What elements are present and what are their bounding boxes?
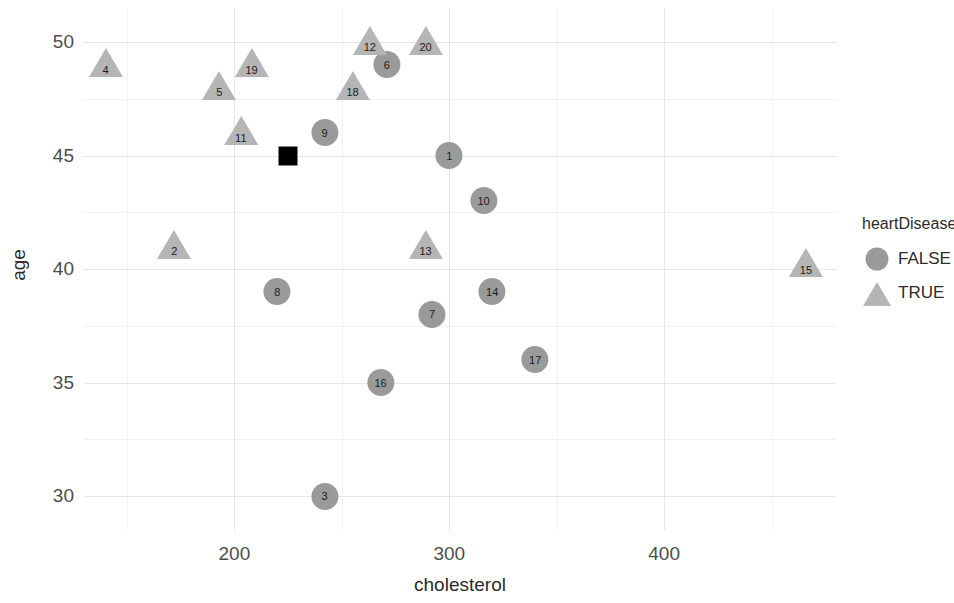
data-point-16[interactable]: 16: [374, 377, 386, 388]
data-point-label: 17: [529, 354, 541, 365]
gridline-minor-horizontal: [84, 326, 836, 327]
legend: heartDisease FALSETRUE: [862, 215, 954, 310]
data-point-label: 14: [486, 286, 498, 297]
data-point-13[interactable]: 13: [419, 241, 431, 252]
legend-item-true[interactable]: TRUE: [862, 276, 954, 310]
data-point-label: 9: [322, 127, 328, 138]
data-point-3[interactable]: 3: [322, 491, 328, 502]
y-axis-title: age: [8, 225, 30, 305]
data-point-label: 20: [419, 42, 431, 53]
y-tick-label: 40: [53, 258, 74, 280]
x-tick-label: 200: [219, 543, 251, 565]
data-point-label: 18: [346, 87, 358, 98]
circle-legend-icon: [862, 244, 892, 274]
data-point-label: 7: [429, 309, 435, 320]
gridline-major-horizontal: [84, 269, 836, 270]
data-point-label: 4: [102, 64, 108, 75]
data-point-label: 11: [235, 132, 246, 143]
data-point-5[interactable]: 5: [216, 82, 222, 93]
data-point-17[interactable]: 17: [529, 354, 541, 365]
data-point-label: 6: [384, 59, 390, 70]
data-point-1[interactable]: 1: [446, 150, 452, 161]
data-point-label: 2: [171, 246, 177, 257]
data-point-label: 5: [216, 87, 222, 98]
y-tick-label: 35: [53, 372, 74, 394]
data-point-15[interactable]: 15: [800, 259, 812, 270]
data-point-label: 19: [245, 64, 257, 75]
legend-title: heartDisease: [862, 215, 954, 233]
data-point-label: 13: [419, 246, 431, 257]
gridline-minor-horizontal: [84, 99, 836, 100]
circle-glyph: [866, 248, 889, 271]
data-point-18[interactable]: 18: [346, 82, 358, 93]
data-point-12[interactable]: 12: [364, 37, 376, 48]
square-marker-icon: [279, 146, 298, 165]
data-point-label: 8: [274, 286, 280, 297]
gridline-minor-horizontal: [84, 212, 836, 213]
data-point-label: 1: [446, 150, 452, 161]
legend-item-label: TRUE: [898, 283, 944, 303]
x-axis-title: cholesterol: [84, 574, 836, 596]
data-point-14[interactable]: 14: [486, 286, 498, 297]
data-point-4[interactable]: 4: [102, 59, 108, 70]
data-point-7[interactable]: 7: [429, 309, 435, 320]
data-point-9[interactable]: 9: [322, 127, 328, 138]
triangle-glyph: [863, 282, 891, 306]
gridline-major-horizontal: [84, 42, 836, 43]
data-point-label: 15: [800, 264, 812, 275]
data-point-label: 10: [477, 195, 489, 206]
legend-item-label: FALSE: [898, 249, 951, 269]
scatter-plot-figure: 3035404550 age 1367891014161724511121315…: [0, 0, 954, 603]
data-point-6[interactable]: 6: [384, 59, 390, 70]
gridline-major-horizontal: [84, 383, 836, 384]
data-point-8[interactable]: 8: [274, 286, 280, 297]
y-tick-label: 45: [53, 145, 74, 167]
x-tick-label: 300: [433, 543, 465, 565]
data-point-label: 16: [374, 377, 386, 388]
data-point-20[interactable]: 20: [419, 37, 431, 48]
data-point-19[interactable]: 19: [245, 59, 257, 70]
legend-entries: FALSETRUE: [862, 242, 954, 310]
data-point-label: 3: [322, 491, 328, 502]
triangle-legend-icon: [862, 278, 892, 308]
gridline-major-horizontal: [84, 496, 836, 497]
y-tick-label: 30: [53, 485, 74, 507]
data-point-2[interactable]: 2: [171, 241, 177, 252]
plot-area: 1367891014161724511121315181920: [84, 8, 836, 530]
data-point-10[interactable]: 10: [477, 195, 489, 206]
y-tick-label: 50: [53, 31, 74, 53]
data-point-11[interactable]: 11: [235, 127, 246, 138]
legend-item-false[interactable]: FALSE: [862, 242, 954, 276]
x-tick-label: 400: [648, 543, 680, 565]
gridline-minor-horizontal: [84, 439, 836, 440]
x-axis-tick-labels: 200300400: [84, 543, 836, 569]
data-point-label: 12: [364, 42, 376, 53]
